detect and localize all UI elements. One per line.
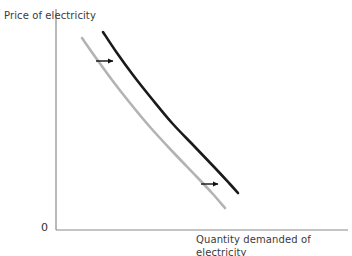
demand-curve-figure: Price of electricity Quantity demanded o…	[0, 0, 352, 256]
y-axis-label: Price of electricity	[4, 9, 96, 22]
series-original-demand-curve	[82, 38, 225, 208]
series-shifted-demand-curve	[103, 32, 238, 193]
chart-canvas	[0, 0, 352, 256]
x-axis-label: Quantity demanded of electricity	[196, 233, 352, 256]
origin-label: 0	[41, 221, 48, 234]
